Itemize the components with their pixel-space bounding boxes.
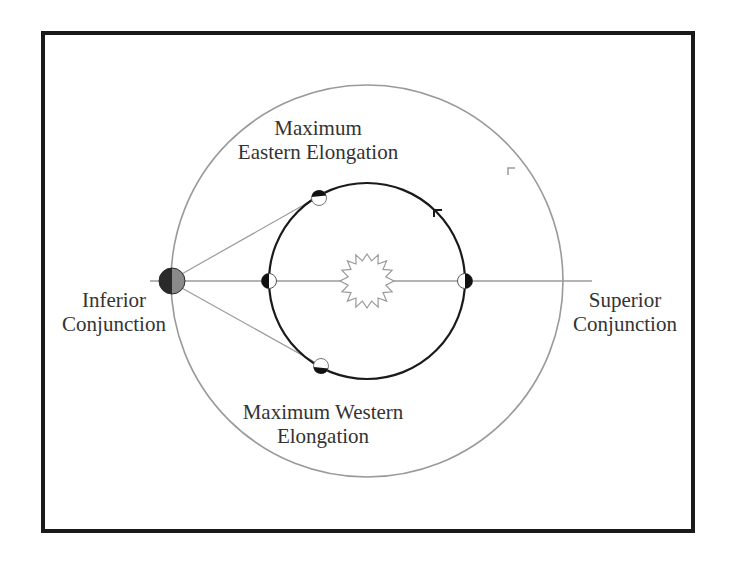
label-inferior-conjunction: Inferior Conjunction	[52, 288, 176, 336]
label-max-eastern-elongation: Maximum Eastern Elongation	[218, 116, 418, 164]
sight-line-western	[180, 287, 318, 364]
planet-inferior-conjunction	[262, 274, 277, 289]
label-max-western-elongation: Maximum Western Elongation	[218, 400, 428, 448]
label-max-eastern-line1: Maximum	[218, 116, 418, 140]
label-inferior-line1: Inferior	[52, 288, 176, 312]
planet-max-western-elongation	[314, 359, 329, 374]
sight-line-eastern	[180, 198, 316, 275]
label-superior-line2: Conjunction	[560, 312, 690, 336]
label-superior-line1: Superior	[560, 288, 690, 312]
orbital-diagram	[0, 0, 732, 564]
planet-max-eastern-elongation	[312, 190, 327, 205]
label-inferior-line2: Conjunction	[52, 312, 176, 336]
label-max-western-line2: Elongation	[218, 424, 428, 448]
label-max-western-line1: Maximum Western	[218, 400, 428, 424]
diagram-canvas: Maximum Eastern Elongation Inferior Conj…	[0, 0, 732, 564]
planet-superior-conjunction	[458, 274, 473, 289]
label-max-eastern-line2: Eastern Elongation	[218, 140, 418, 164]
label-superior-conjunction: Superior Conjunction	[560, 288, 690, 336]
sun-icon	[340, 254, 394, 308]
outer-orbit-arrow-icon	[508, 168, 515, 175]
